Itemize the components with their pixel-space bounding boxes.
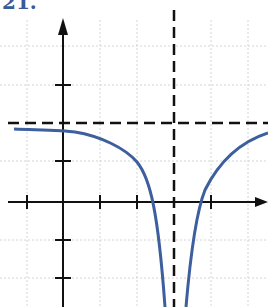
y-axis <box>55 30 71 307</box>
x-axis <box>8 195 262 209</box>
x-axis-arrow-icon <box>255 197 268 207</box>
grid <box>0 20 268 307</box>
y-axis-arrow-icon <box>58 18 68 35</box>
chart-canvas <box>0 0 268 307</box>
function-curve <box>14 129 268 307</box>
